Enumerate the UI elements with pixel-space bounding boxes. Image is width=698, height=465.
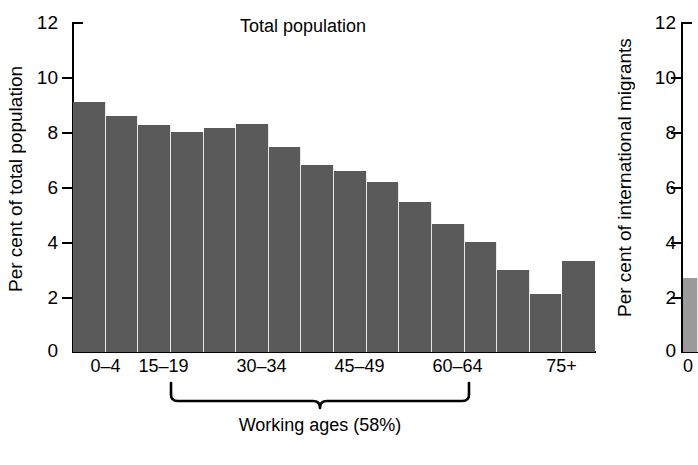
bar-35-39 bbox=[301, 165, 334, 352]
y-axis-tick-10 bbox=[62, 77, 73, 79]
bar-60-64 bbox=[465, 242, 498, 352]
x-tick-label-45-49: 45–49 bbox=[327, 356, 392, 377]
y-tick-label-0: 0 bbox=[18, 341, 58, 360]
y-axis-tick-4 bbox=[62, 242, 73, 244]
bar-50-54 bbox=[399, 202, 432, 352]
y-tick-label-8: 8 bbox=[18, 123, 58, 142]
y-axis-label-right: Per cent of international migrants bbox=[614, 18, 636, 338]
y-tick-label-2-right: 2 bbox=[636, 288, 676, 307]
working-ages-brace bbox=[165, 381, 475, 415]
figure-container: Per cent of total population Total popul… bbox=[0, 0, 698, 465]
bar-70-74 bbox=[530, 294, 563, 352]
bar-right-0-4 bbox=[683, 278, 698, 352]
working-ages-label: Working ages (58%) bbox=[165, 415, 475, 436]
x-tick-label-0-4: 0–4 bbox=[73, 356, 138, 377]
y-axis-tick-12-right bbox=[681, 22, 692, 24]
bar-45-49 bbox=[367, 182, 400, 353]
y-tick-label-2: 2 bbox=[18, 288, 58, 307]
x-tick-label-right-0: 0 bbox=[676, 356, 698, 377]
chart-panel-total-population: Per cent of total population Total popul… bbox=[0, 0, 610, 465]
y-tick-label-10: 10 bbox=[18, 68, 58, 87]
y-axis-tick-2 bbox=[62, 297, 73, 299]
x-tick-label-75plus: 75+ bbox=[529, 356, 594, 377]
y-tick-label-6: 6 bbox=[18, 178, 58, 197]
bar-75plus bbox=[562, 261, 595, 352]
y-tick-label-4: 4 bbox=[18, 233, 58, 252]
y-tick-label-0-right: 0 bbox=[636, 341, 676, 360]
y-tick-label-6-right: 6 bbox=[636, 178, 676, 197]
bar-40-44 bbox=[334, 171, 367, 353]
y-tick-label-4-right: 4 bbox=[636, 233, 676, 252]
y-tick-label-12: 12 bbox=[18, 13, 58, 32]
bar-55-59 bbox=[432, 224, 465, 352]
bar-30-34 bbox=[269, 147, 302, 352]
x-tick-label-30-34: 30–34 bbox=[229, 356, 294, 377]
bar-65-69 bbox=[497, 270, 530, 353]
y-axis-tick-6 bbox=[62, 187, 73, 189]
y-tick-label-8-right: 8 bbox=[636, 123, 676, 142]
bar-25-29 bbox=[236, 124, 269, 352]
bar-10-14 bbox=[138, 125, 171, 352]
bar-0-4 bbox=[73, 102, 106, 352]
bar-20-24 bbox=[204, 128, 237, 352]
bar-series-total-population bbox=[73, 22, 595, 352]
y-axis-tick-8 bbox=[62, 132, 73, 134]
x-tick-label-60-64: 60–64 bbox=[425, 356, 490, 377]
bar-15-19 bbox=[171, 132, 204, 352]
bar-5-9 bbox=[106, 116, 139, 353]
y-tick-label-12-right: 12 bbox=[636, 13, 676, 32]
y-tick-label-10-right: 10 bbox=[636, 68, 676, 87]
x-tick-label-15-19: 15–19 bbox=[131, 356, 196, 377]
